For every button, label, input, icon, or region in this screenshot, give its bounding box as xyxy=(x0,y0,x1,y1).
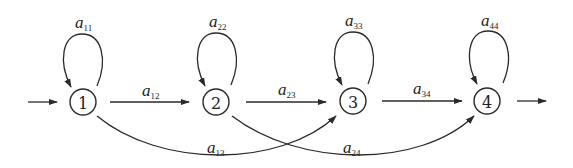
label-a44: a44 xyxy=(481,11,499,31)
label-a33: a33 xyxy=(345,11,363,31)
state-2-label: 2 xyxy=(211,94,221,113)
state-2: 2 xyxy=(203,89,229,115)
label-a11: a11 xyxy=(75,13,92,33)
state-3-label: 3 xyxy=(348,93,358,112)
state-1: 1 xyxy=(70,89,96,115)
label-a12: a12 xyxy=(142,81,160,101)
state-4: 4 xyxy=(474,88,500,114)
self-loop-1 xyxy=(63,34,102,87)
self-loop-2 xyxy=(197,33,236,86)
label-a22: a22 xyxy=(209,12,227,32)
state-1-label: 1 xyxy=(78,94,88,113)
self-loop-3 xyxy=(334,32,373,85)
label-a13: a13 xyxy=(207,138,225,158)
label-a24: a24 xyxy=(343,138,361,158)
state-3: 3 xyxy=(340,88,366,114)
label-a34: a34 xyxy=(413,79,431,99)
self-loop-4 xyxy=(469,31,508,84)
label-a23: a23 xyxy=(278,80,296,100)
hmm-diagram: 1 2 3 4 a11 a22 a33 a44 a12 a23 a34 a13 … xyxy=(0,0,573,168)
state-4-label: 4 xyxy=(482,93,492,112)
